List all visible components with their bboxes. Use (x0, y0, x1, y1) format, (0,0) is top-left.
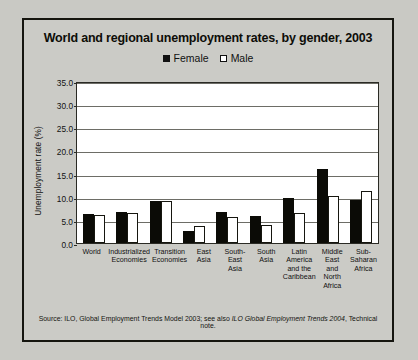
bar-female (283, 198, 294, 243)
x-axis-tick-label: SouthAsia (251, 248, 282, 290)
bar-female (250, 216, 261, 243)
source-note: Source: ILO, Global Employment Trends Mo… (24, 315, 392, 329)
bar-group (345, 83, 378, 243)
plot-area: 35.030.025.020.015.010.05.00.0 (76, 82, 379, 244)
x-axis-tick-label: Sub-SaharanAfrica (348, 248, 379, 290)
y-axis-tick-label: 30.0 (57, 101, 73, 111)
figure-panel: World and regional unemployment rates, b… (22, 18, 394, 342)
source-text: Source: ILO, Global Employment Trends Mo… (39, 315, 232, 322)
x-axis-tick-label: Middle EastandNorth Africa (317, 248, 348, 290)
bar-female (216, 212, 227, 243)
y-axis-tick-label: 20.0 (57, 147, 73, 157)
bar-group (278, 83, 311, 243)
bar-male (161, 201, 172, 243)
legend-label-male: Male (231, 52, 254, 64)
legend-swatch-male-icon (220, 55, 227, 62)
plot-wrapper: Unemployment rate (%) 35.030.025.020.015… (24, 78, 392, 303)
bar-groups (77, 83, 378, 243)
bar-male (194, 226, 205, 243)
x-axis-tick-label: TransitionEconomies (151, 248, 188, 290)
bar-female (350, 200, 361, 243)
chart-legend: Female Male (24, 52, 392, 64)
x-axis-tick-label: World (76, 248, 107, 290)
bar-group (211, 83, 244, 243)
legend-item-male: Male (220, 52, 254, 64)
x-axis-tick-label: South-EastAsia (219, 248, 250, 290)
bar-male (361, 191, 372, 243)
bar-male (94, 215, 105, 243)
bar-group (110, 83, 143, 243)
x-axis-tick-label: IndustrializedEconomies (107, 248, 151, 290)
y-axis-tick-label: 10.0 (57, 194, 73, 204)
x-axis-tick-label: Latin Americaand theCaribbean (282, 248, 317, 290)
bar-male (227, 217, 238, 243)
x-axis-tick-label: East Asia (188, 248, 219, 290)
legend-swatch-female-icon (163, 55, 170, 62)
y-axis-tick-mark (74, 245, 77, 246)
y-axis-tick-label: 35.0 (57, 78, 73, 88)
bar-group (144, 83, 177, 243)
bar-male (328, 196, 339, 243)
y-axis-label: Unemployment rate (%) (33, 96, 43, 246)
bar-group (244, 83, 277, 243)
bar-male (261, 225, 272, 243)
bar-group (311, 83, 344, 243)
bar-male (294, 213, 305, 243)
bar-female (317, 169, 328, 243)
x-axis-labels: WorldIndustrializedEconomiesTransitionEc… (76, 248, 379, 290)
y-axis-tick-label: 25.0 (57, 124, 73, 134)
chart-title: World and regional unemployment rates, b… (24, 31, 392, 45)
bar-group (177, 83, 210, 243)
bar-female (116, 212, 127, 243)
bar-female (150, 201, 161, 243)
y-axis-tick-label: 15.0 (57, 171, 73, 181)
legend-label-female: Female (174, 52, 209, 64)
bar-female (83, 214, 94, 243)
legend-item-female: Female (163, 52, 209, 64)
bar-male (127, 213, 138, 243)
y-axis-tick-label: 5.0 (61, 217, 73, 227)
source-italic-text: ILO Global Employment Trends 2004 (232, 315, 345, 322)
bar-female (183, 231, 194, 243)
bar-group (77, 83, 110, 243)
y-axis-tick-label: 0.0 (61, 240, 73, 250)
